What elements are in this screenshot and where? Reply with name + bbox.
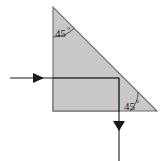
outlet-arrow-head-icon [113,121,125,131]
inscribed-rectangle-shape [53,78,119,111]
top-angle-value: 45 [55,27,67,39]
geometry-figure: 45° 45° [0,0,163,161]
top-angle-degree-symbol: ° [67,26,70,35]
bottom-right-angle-degree-symbol: ° [136,99,139,108]
figure-canvas: 45° 45° [0,0,163,161]
bottom-right-angle-value: 45 [124,100,136,112]
inlet-arrow-head-icon [33,73,44,83]
